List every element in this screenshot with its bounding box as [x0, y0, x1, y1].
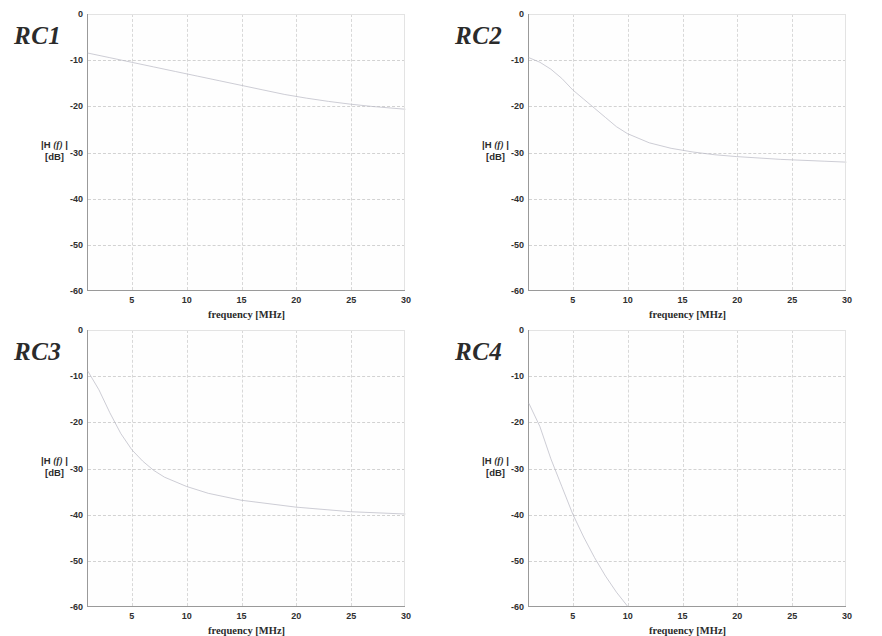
y-axis-label-magnitude: |H — [482, 139, 492, 150]
y-axis-label-magnitude: |H — [41, 455, 51, 466]
data-trace — [529, 404, 627, 606]
y-axis-tick-label: -10 — [511, 371, 524, 381]
gridline-vertical — [296, 14, 297, 290]
y-axis-tick-label: -20 — [70, 101, 83, 111]
panel-title: RC4 — [455, 338, 502, 366]
x-axis-tick-label: 10 — [182, 611, 192, 621]
gridline-horizontal — [529, 422, 846, 423]
gridline-horizontal — [529, 14, 846, 15]
plot-area: 0-10-20-30-40-50-6051015202530|H (f) |[d… — [87, 14, 405, 291]
x-axis-tick-label: 30 — [401, 611, 411, 621]
y-axis-label-magnitude: |H — [482, 455, 492, 466]
gridline-horizontal — [88, 469, 405, 470]
gridline-horizontal — [529, 330, 846, 331]
chart-panel-rc1: RC10-10-20-30-40-50-6051015202530|H (f) … — [0, 0, 441, 316]
y-axis-label-argument: (f) — [494, 140, 504, 150]
y-axis-label: |H (f) |[dB] — [41, 139, 68, 163]
x-axis-tick-label: 15 — [237, 295, 247, 305]
data-trace-layer — [88, 330, 405, 606]
y-axis-tick-label: -50 — [70, 240, 83, 250]
x-axis-tick-label: 25 — [346, 611, 356, 621]
y-axis-tick-label: -60 — [511, 602, 524, 612]
plot-area: 0-10-20-30-40-50-6051015202530|H (f) |[d… — [87, 330, 405, 607]
x-axis-tick-label: 5 — [129, 611, 134, 621]
y-axis-tick-label: -20 — [511, 101, 524, 111]
data-trace-layer — [529, 330, 846, 606]
x-axis-tick-label: 5 — [129, 295, 134, 305]
gridline-horizontal — [88, 199, 405, 200]
chart-panel-rc4: RC40-10-20-30-40-50-6051015202530|H (f) … — [441, 316, 882, 632]
gridline-vertical — [351, 330, 352, 606]
gridline-vertical — [792, 330, 793, 606]
y-axis-tick-label: -50 — [511, 556, 524, 566]
y-axis-tick-label: -40 — [511, 194, 524, 204]
x-axis-tick-label: 25 — [787, 611, 797, 621]
y-axis-label-unit: [dB] — [41, 152, 68, 164]
x-axis-tick-label: 20 — [732, 295, 742, 305]
y-axis-tick-label: -30 — [511, 464, 524, 474]
y-axis-tick-label: -30 — [511, 148, 524, 158]
x-axis-tick-label: 20 — [732, 611, 742, 621]
y-axis-label: |H (f) |[dB] — [41, 455, 68, 479]
data-trace-layer — [88, 14, 405, 290]
gridline-horizontal — [88, 376, 405, 377]
gridline-horizontal — [529, 376, 846, 377]
gridline-vertical — [132, 14, 133, 290]
gridline-vertical — [737, 14, 738, 290]
y-axis-tick-label: -40 — [511, 510, 524, 520]
y-axis-tick-label: 0 — [519, 325, 524, 335]
gridline-horizontal — [529, 245, 846, 246]
gridline-horizontal — [529, 515, 846, 516]
y-axis-tick-label: -40 — [70, 510, 83, 520]
y-axis-label: |H (f) |[dB] — [482, 455, 509, 479]
gridline-vertical — [792, 14, 793, 290]
y-axis-tick-label: -10 — [70, 55, 83, 65]
x-axis-tick-label: 30 — [842, 295, 852, 305]
chart-panel-rc2: RC20-10-20-30-40-50-6051015202530|H (f) … — [441, 0, 882, 316]
gridline-vertical — [683, 14, 684, 290]
chart-panel-rc3: RC30-10-20-30-40-50-6051015202530|H (f) … — [0, 316, 441, 632]
gridline-horizontal — [88, 561, 405, 562]
panel-title: RC1 — [14, 22, 61, 50]
data-trace — [529, 58, 846, 162]
gridline-horizontal — [529, 106, 846, 107]
gridline-horizontal — [88, 330, 405, 331]
y-axis-tick-label: 0 — [78, 325, 83, 335]
x-axis-tick-label: 5 — [570, 295, 575, 305]
y-axis-tick-label: -20 — [511, 417, 524, 427]
x-axis-label: frequency [MHz] — [649, 625, 726, 636]
gridline-vertical — [242, 14, 243, 290]
y-axis-tick-label: -40 — [70, 194, 83, 204]
gridline-horizontal — [88, 14, 405, 15]
data-trace-layer — [529, 14, 846, 290]
panel-title: RC3 — [14, 338, 61, 366]
y-axis-tick-label: -30 — [70, 464, 83, 474]
y-axis-tick-label: 0 — [78, 9, 83, 19]
data-trace — [88, 371, 405, 514]
panel-title: RC2 — [455, 22, 502, 50]
y-axis-label-argument: (f) — [53, 456, 63, 466]
x-axis-tick-label: 25 — [787, 295, 797, 305]
x-axis-tick-label: 10 — [623, 295, 633, 305]
x-axis-tick-label: 30 — [842, 611, 852, 621]
gridline-vertical — [242, 330, 243, 606]
y-axis-label-bar: | — [506, 455, 509, 466]
y-axis-tick-label: -60 — [511, 286, 524, 296]
y-axis-label-unit: [dB] — [482, 468, 509, 480]
y-axis-tick-label: -20 — [70, 417, 83, 427]
y-axis-tick-label: -50 — [70, 556, 83, 566]
gridline-vertical — [132, 330, 133, 606]
data-trace — [88, 53, 405, 109]
y-axis-label-unit: [dB] — [41, 468, 68, 480]
x-axis-tick-label: 5 — [570, 611, 575, 621]
x-axis-tick-label: 20 — [291, 611, 301, 621]
plot-area: 0-10-20-30-40-50-6051015202530|H (f) |[d… — [528, 14, 846, 291]
x-axis-label: frequency [MHz] — [208, 625, 285, 636]
gridline-horizontal — [88, 245, 405, 246]
y-axis-tick-label: -60 — [70, 286, 83, 296]
y-axis-tick-label: -50 — [511, 240, 524, 250]
x-axis-tick-label: 10 — [623, 611, 633, 621]
y-axis-label: |H (f) |[dB] — [482, 139, 509, 163]
gridline-horizontal — [88, 422, 405, 423]
